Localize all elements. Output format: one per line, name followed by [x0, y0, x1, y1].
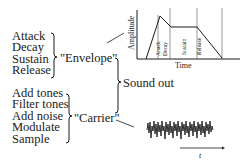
waveform-t-label: t [199, 151, 202, 160]
carrier-waveform: t [0, 0, 249, 161]
waveform-trace [147, 121, 213, 139]
